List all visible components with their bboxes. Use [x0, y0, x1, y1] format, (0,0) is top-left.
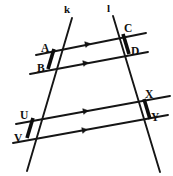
transversal-lines-group [27, 16, 160, 172]
parallel-arrow-icon-4 [82, 128, 87, 134]
point-label-A: A [41, 42, 50, 54]
line-label-k: k [64, 3, 71, 15]
point-label-Y: Y [151, 111, 160, 123]
parallel-arrow-markers-group [82, 42, 90, 134]
parallel-arrow-icon-1 [85, 42, 90, 48]
point-label-X: X [145, 88, 154, 100]
geometry-canvas: k l A B C D U V X Y [0, 0, 173, 176]
point-label-V: V [14, 132, 23, 144]
line-label-l: l [107, 2, 110, 14]
parallel-arrow-icon-3 [83, 109, 88, 115]
segment-XY [144, 99, 150, 119]
line-labels-group: k l [64, 2, 110, 15]
point-label-B: B [37, 62, 45, 74]
geometry-diagram: k l A B C D U V X Y [0, 0, 173, 176]
line-k [27, 18, 72, 171]
point-labels-group: A B C D U V X Y [14, 22, 160, 144]
point-label-C: C [124, 22, 132, 34]
parallel-arrow-icon-2 [83, 61, 88, 67]
point-label-U: U [20, 109, 29, 121]
point-label-D: D [131, 45, 139, 57]
